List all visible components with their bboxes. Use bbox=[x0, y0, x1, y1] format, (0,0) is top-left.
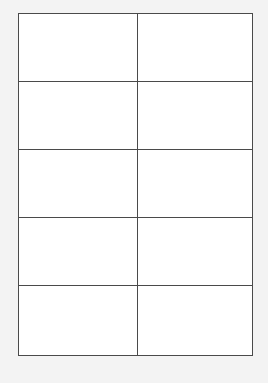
label-cell-r1-c2[interactable] bbox=[138, 14, 252, 82]
label-cell-r2-c2[interactable] bbox=[138, 82, 252, 150]
label-cell-r3-c1[interactable] bbox=[19, 150, 138, 218]
label-cell-r4-c2[interactable] bbox=[138, 218, 252, 286]
label-cell-r1-c1[interactable] bbox=[19, 14, 138, 82]
label-cell-r3-c2[interactable] bbox=[138, 150, 252, 218]
label-cell-r5-c1[interactable] bbox=[19, 286, 138, 355]
label-cell-r2-c1[interactable] bbox=[19, 82, 138, 150]
label-cell-r4-c1[interactable] bbox=[19, 218, 138, 286]
label-grid bbox=[18, 13, 253, 356]
label-cell-r5-c2[interactable] bbox=[138, 286, 252, 355]
